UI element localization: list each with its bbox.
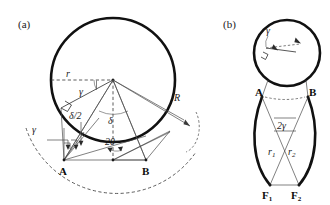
geometry-diagram-svg: (a) r γ γ δ/2 δ 2θ R A B xyxy=(0,0,330,205)
panel-a-B-to-upper-right xyxy=(146,131,170,160)
panel-a-label-gamma-top: γ xyxy=(79,86,84,97)
panel-a-delta-arc xyxy=(99,111,128,114)
panel-b-group: (b) γ A B 2γ r1 r2 F1 F2 xyxy=(223,18,320,203)
panel-a-R-arc-dashed xyxy=(186,112,199,152)
panel-a-label-B: B xyxy=(142,165,150,177)
panel-b-label-r2: r2 xyxy=(288,146,296,159)
panel-a-label-delta: δ xyxy=(108,115,113,126)
panel-a-point-mid-dot xyxy=(112,159,115,162)
panel-b-point-F1-dot xyxy=(269,184,272,187)
panel-b-gamma-arc xyxy=(266,36,268,47)
panel-a-label-r: r xyxy=(66,68,70,79)
panel-b-label-F1: F1 xyxy=(262,189,273,203)
figure-container: (a) r γ γ δ/2 δ 2θ R A B xyxy=(0,0,330,205)
panel-a-point-B-dot xyxy=(145,159,148,162)
panel-a-label-delta-half: δ/2 xyxy=(69,110,81,121)
panel-b-label-2gamma: 2γ xyxy=(277,120,287,131)
panel-a-label-gamma-left: γ xyxy=(32,124,37,135)
panel-b-label-A: A xyxy=(255,86,263,98)
panel-a-delta-half-arrowhead xyxy=(79,141,84,146)
panel-b-label-F2: F2 xyxy=(291,189,302,203)
panel-b-label-B: B xyxy=(309,86,317,98)
panel-b-label: (b) xyxy=(223,18,236,31)
panel-b-point-F2-dot xyxy=(298,184,301,187)
panel-a-group: (a) r γ γ δ/2 δ 2θ R A B xyxy=(18,18,199,193)
panel-b-right-angle-marker xyxy=(261,52,268,60)
panel-a-R-arrowhead xyxy=(184,119,191,126)
panel-b-tangent-right xyxy=(306,80,308,97)
panel-a-gamma-arc xyxy=(94,80,97,90)
panel-a-label: (a) xyxy=(18,18,31,31)
panel-a-label-R: R xyxy=(173,92,180,103)
panel-a-label-A: A xyxy=(59,165,67,177)
panel-b-upper-circle xyxy=(254,20,320,86)
panel-a-label-2theta: 2θ xyxy=(105,136,115,147)
panel-b-label-r1: r1 xyxy=(268,146,275,159)
panel-a-point-A-dot xyxy=(63,159,66,162)
panel-b-ray-B-to-F1 xyxy=(270,97,308,185)
panel-b-ray-A-to-F2 xyxy=(262,97,299,185)
panel-b-ray-arrowhead xyxy=(294,38,301,44)
panel-b-label-gamma: γ xyxy=(266,25,271,36)
panel-b-solid-ray xyxy=(266,48,296,52)
panel-a-R-arrow-line xyxy=(113,80,190,126)
panel-b-chord-AB-dashed xyxy=(265,97,305,100)
panel-b-lens-right-arc xyxy=(299,97,315,185)
panel-a-B-to-hub xyxy=(113,80,146,160)
panel-b-dashed-radius xyxy=(266,44,300,48)
